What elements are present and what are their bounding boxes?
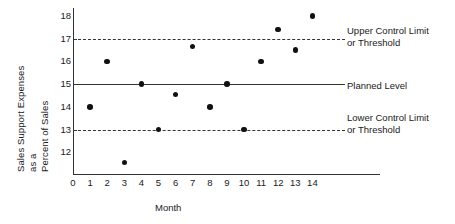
- x-tick-label-7: 7: [186, 178, 200, 188]
- data-point-month-10: [241, 127, 247, 133]
- y-axis-title-line-3: Percent of Sales: [40, 101, 50, 172]
- x-tick-label-6: 6: [169, 178, 183, 188]
- annotation-pl-line-1: Planned Level: [347, 80, 407, 92]
- x-tick-label-14: 14: [305, 178, 319, 188]
- annotation-lower-control-limit: Lower Control Limit or Threshold: [347, 112, 429, 135]
- x-tick-label-2: 2: [100, 178, 114, 188]
- x-axis-line: [73, 174, 380, 175]
- data-point-month-6: [173, 92, 179, 98]
- data-point-month-7: [190, 44, 196, 50]
- y-axis-tick-labels: 12131415161718: [53, 0, 71, 175]
- x-axis-title: Month: [155, 203, 181, 213]
- annotation-ucl-line-1: Upper Control Limit: [347, 25, 429, 37]
- x-tick-label-10: 10: [237, 178, 251, 188]
- y-axis-title: Sales Support Expenses as a Percent of S…: [0, 0, 60, 180]
- y-tick-label-17: 17: [55, 34, 71, 44]
- y-tick-label-18: 18: [55, 11, 71, 21]
- data-point-month-14: [310, 13, 316, 19]
- data-point-month-11: [258, 59, 264, 65]
- annotation-lcl-line-1: Lower Control Limit: [347, 112, 429, 124]
- x-tick-label-12: 12: [271, 178, 285, 188]
- x-tick-label-11: 11: [254, 178, 268, 188]
- y-axis-title-line-1: Sales Support Expenses: [16, 66, 26, 172]
- data-point-month-1: [87, 104, 93, 110]
- reference-line-upper-control-limit: [73, 39, 345, 40]
- data-point-month-5: [156, 127, 162, 133]
- y-tick-label-13: 13: [55, 125, 71, 135]
- data-point-month-13: [293, 47, 299, 53]
- x-tick-label-4: 4: [134, 178, 148, 188]
- y-axis-line: [73, 8, 74, 175]
- y-tick-label-12: 12: [55, 147, 71, 157]
- plot-area: [73, 8, 380, 175]
- y-axis-title-line-2: as a: [28, 154, 38, 172]
- y-tick-mark-17: [73, 39, 77, 40]
- control-chart: Sales Support Expenses as a Percent of S…: [0, 0, 455, 224]
- data-point-month-9: [224, 81, 230, 87]
- data-point-month-8: [207, 104, 213, 110]
- y-tick-label-14: 14: [55, 102, 71, 112]
- x-tick-label-9: 9: [220, 178, 234, 188]
- data-point-month-4: [139, 81, 145, 87]
- y-tick-mark-13: [73, 130, 77, 131]
- y-tick-label-15: 15: [55, 79, 71, 89]
- x-tick-label-0: 0: [66, 178, 80, 188]
- reference-line-planned-level: [73, 84, 345, 85]
- data-point-month-2: [104, 59, 110, 65]
- y-tick-label-16: 16: [55, 56, 71, 66]
- x-tick-label-5: 5: [152, 178, 166, 188]
- data-point-month-3: [122, 160, 128, 166]
- annotation-planned-level: Planned Level: [347, 80, 407, 92]
- annotation-ucl-line-2: or Threshold: [347, 37, 429, 49]
- x-tick-label-1: 1: [83, 178, 97, 188]
- x-tick-label-8: 8: [203, 178, 217, 188]
- annotation-upper-control-limit: Upper Control Limit or Threshold: [347, 25, 429, 48]
- annotation-lcl-line-2: or Threshold: [347, 124, 429, 136]
- x-tick-label-13: 13: [288, 178, 302, 188]
- reference-line-lower-control-limit: [73, 130, 345, 131]
- x-tick-label-3: 3: [117, 178, 131, 188]
- data-point-month-12: [275, 27, 281, 33]
